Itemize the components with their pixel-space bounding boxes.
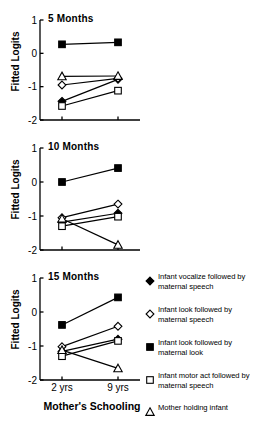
filled-square-marker [59,179,66,186]
x-axis-title: Mother's Schooling [38,400,146,412]
legend: Infant vocalize followed by maternal spe… [144,272,255,422]
series-line [62,204,118,218]
series-line [62,168,118,182]
series-line [62,350,118,368]
y-tick-label: -2 [28,245,37,256]
chart-panel-15-months: 15 Months Fitted Logits 10-1-22 yrs9 yrs [0,266,150,422]
open-square-marker [59,103,66,110]
plot-area: 10-1-2 [0,8,150,136]
y-tick-label: 1 [31,143,37,154]
open-diamond-marker [114,200,122,208]
legend-label: Infant look followed by maternal speech [158,305,255,324]
open-square-marker [115,213,122,220]
legend-item: Infant motor act followed by maternal sp… [144,371,255,390]
series-line [62,297,118,325]
filled-diamond-marker [144,273,158,285]
legend-item: Infant look followed by maternal look [144,338,255,357]
y-tick-label: 0 [31,177,37,188]
y-tick-label: 0 [31,307,37,318]
y-tick-label: -2 [28,375,37,386]
y-tick-label: -1 [28,341,37,352]
series-line [62,219,118,245]
filled-square-marker [115,39,122,46]
filled-square-marker [115,165,122,172]
open-square-marker [59,223,66,230]
filled-diamond-marker [146,277,154,285]
y-tick-label: 0 [31,48,37,59]
open-triangle-marker [144,404,158,416]
plot-area: 10-1-22 yrs9 yrs [0,266,150,400]
legend-label: Infant look followed by maternal look [158,338,255,357]
open-triangle-marker [146,408,154,416]
open-diamond-marker [58,81,66,89]
plot-area: 10-1-2 [0,136,150,266]
open-triangle-marker [114,241,122,249]
open-square-marker [115,338,122,345]
legend-label: Infant motor act followed by maternal sp… [158,371,255,390]
series-line [62,78,118,85]
open-diamond-marker [144,306,158,318]
x-tick-label: 2 yrs [51,382,73,393]
filled-square-marker [59,322,66,329]
y-tick-label: -2 [28,115,37,126]
y-tick-label: 1 [31,15,37,26]
y-tick-label: -1 [28,81,37,92]
legend-label: Mother holding infant [158,403,228,413]
chart-panel-10-months: 10 Months Fitted Logits 10-1-2 [0,136,150,266]
filled-square-marker [115,294,122,301]
series-line [62,42,118,44]
series-line [62,339,118,351]
fitted-logits-figure: 5 Months Fitted Logits 10-1-2 10 Months … [0,0,255,422]
y-tick-label: -1 [28,211,37,222]
filled-square-marker [147,344,154,351]
open-square-marker [144,372,158,384]
legend-item: Mother holding infant [144,403,255,416]
legend-label: Infant vocalize followed by maternal spe… [158,272,255,291]
filled-square-marker [59,41,66,48]
x-tick-label: 9 yrs [107,382,129,393]
open-diamond-marker [146,310,154,318]
legend-item: Infant vocalize followed by maternal spe… [144,272,255,291]
open-diamond-marker [114,322,122,330]
filled-square-marker [144,339,158,351]
open-square-marker [115,87,122,94]
open-square-marker [147,377,154,384]
legend-item: Infant look followed by maternal speech [144,305,255,324]
y-tick-label: 1 [31,273,37,284]
chart-panel-5-months: 5 Months Fitted Logits 10-1-2 [0,8,150,136]
